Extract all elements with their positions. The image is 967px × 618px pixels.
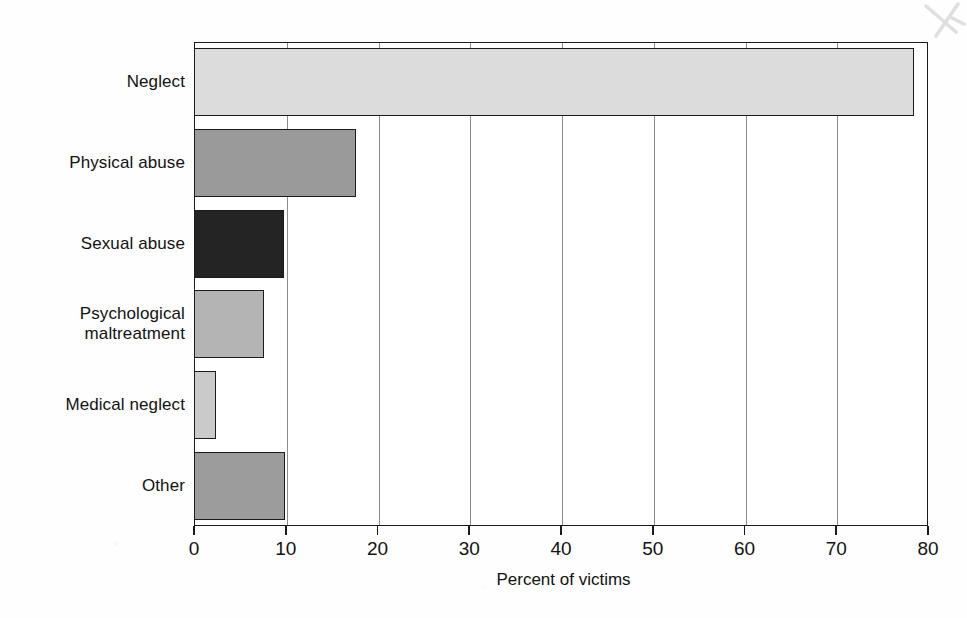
x-tick-20 bbox=[377, 526, 379, 535]
x-tick-60 bbox=[744, 526, 746, 535]
x-tick-label-0: 0 bbox=[171, 538, 217, 560]
x-tick-label-70: 70 bbox=[813, 538, 859, 560]
category-label-physical-abuse: Physical abuse bbox=[69, 153, 185, 173]
x-tick-30 bbox=[468, 526, 470, 535]
x-tick-label-30: 30 bbox=[446, 538, 492, 560]
bar-chart: NeglectPhysical abuseSexual abusePsychol… bbox=[0, 0, 967, 618]
x-tick-label-20: 20 bbox=[355, 538, 401, 560]
category-label-psychological-maltreatment: Psychological maltreatment bbox=[80, 304, 185, 344]
bar-other bbox=[194, 452, 285, 520]
category-label-sexual-abuse: Sexual abuse bbox=[81, 234, 185, 254]
x-tick-10 bbox=[285, 526, 287, 535]
x-tick-40 bbox=[560, 526, 562, 535]
bar-neglect bbox=[194, 48, 914, 116]
x-tick-label-10: 10 bbox=[263, 538, 309, 560]
bars-layer bbox=[194, 42, 928, 526]
x-tick-label-50: 50 bbox=[630, 538, 676, 560]
x-tick-70 bbox=[835, 526, 837, 535]
x-tick-label-80: 80 bbox=[905, 538, 951, 560]
bar-psychological-maltreatment bbox=[194, 290, 264, 358]
category-label-medical-neglect: Medical neglect bbox=[65, 395, 185, 415]
x-tick-label-40: 40 bbox=[538, 538, 584, 560]
category-label-other: Other bbox=[142, 476, 185, 496]
x-tick-label-60: 60 bbox=[722, 538, 768, 560]
pencil-check-mark-artifact bbox=[922, 2, 966, 48]
bar-medical-neglect bbox=[194, 371, 216, 439]
x-tick-50 bbox=[652, 526, 654, 535]
bar-physical-abuse bbox=[194, 129, 356, 197]
category-label-neglect: Neglect bbox=[127, 72, 185, 92]
x-tick-80 bbox=[927, 526, 929, 535]
x-tick-0 bbox=[193, 526, 195, 535]
x-axis-title-text: Percent of victims bbox=[496, 570, 630, 589]
bar-sexual-abuse bbox=[194, 210, 284, 278]
x-axis-title: Percent of victims bbox=[0, 570, 967, 590]
